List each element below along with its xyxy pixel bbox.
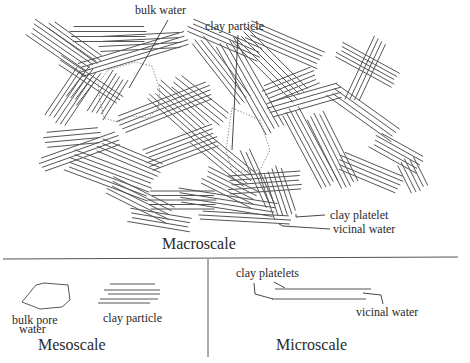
macroscale-title: Macroscale [162,235,236,252]
clay-platelet [132,218,188,227]
clay-particle-label: clay particle [205,19,264,33]
clay-platelet [333,93,393,136]
clay-particle [45,67,95,126]
clay-platelet [341,51,394,80]
clay-platelet [264,67,310,86]
clay-platelet [245,38,317,69]
clay-platelet [81,44,188,76]
clay-platelet [376,135,423,161]
clay-platelet [375,140,420,165]
clay-platelet [34,24,93,65]
clay-platelet [122,94,211,128]
clay-platelet [87,70,113,111]
clay-particle [216,36,284,134]
clay-particle [336,42,400,87]
clay-platelet [149,94,196,136]
clay-platelet [289,109,330,186]
vicinal-water-leader [279,224,330,229]
platelets-leader-1 [274,282,285,288]
clay-particle [172,76,229,126]
clay-platelet [92,73,117,112]
clay-particle [267,83,342,117]
clay-platelet-leader [296,214,325,217]
clay-particle [190,128,256,187]
clay-particle-leader [232,35,238,150]
clay-platelet [102,38,178,42]
bulk-pore-water-shape [22,283,70,309]
clay-platelet [100,33,179,37]
clay-platelet [326,95,391,142]
clay-platelet [249,149,274,203]
clay-multiscale-diagram: bulk water clay particle clay platelet v… [0,0,470,363]
meso-clay-particle [98,284,160,303]
clay-platelets-label: clay platelets [236,266,299,280]
bulk-pore-label-line2: water [19,322,46,336]
clay-platelet [47,28,97,64]
clay-particle [369,133,424,173]
clay-platelet [342,42,399,73]
clay-particle [398,157,428,194]
clay-platelet [273,97,342,117]
clay-platelet [47,128,98,133]
clay-platelet [43,132,100,137]
clay-platelet [270,92,341,112]
microscale-title: Microscale [276,336,347,353]
clay-platelet [374,145,417,169]
clay-platelet [199,133,252,176]
clay-particle [26,19,97,76]
mesoscale-title: Mesoscale [38,336,106,353]
clay-platelet-label: clay platelet [330,208,389,222]
clay-platelet [69,162,149,192]
meso-clay-particle-label: clay particle [103,311,162,325]
horizontal-separator [3,257,458,259]
clay-platelet [33,29,90,68]
clay-platelet [320,114,354,182]
clay-platelet [126,99,212,133]
clay-platelet [116,85,210,121]
platelets-leader-2 [254,283,273,299]
clay-platelet [339,169,395,193]
clay-platelet [97,151,158,177]
clay-platelet [342,47,397,77]
clay-platelet [270,83,338,102]
clay-platelet [64,170,148,201]
clay-platelet [336,83,400,129]
clay-platelet [339,165,398,190]
clay-particle [307,111,358,189]
bulk-water-leader [129,20,168,88]
macroscale-clay-particles [26,19,428,232]
vicinal-water-micro-label: vicinal water [356,305,418,319]
clay-platelet [26,35,86,77]
clay-platelet [336,52,394,84]
clay-platelet [307,120,341,189]
clay-platelet [131,213,190,223]
clay-particle [143,124,219,170]
clay-platelet [127,221,190,231]
clay-particle [64,150,154,201]
clay-platelet [69,157,151,188]
clay-particle [87,70,128,120]
bulk-water-label: bulk water [135,3,186,17]
clay-particle [70,27,147,42]
clay-platelet [130,208,191,218]
clay-platelet [336,57,392,88]
vicinal-water-label: vicinal water [333,222,395,236]
clay-platelet [334,88,396,132]
clay-platelet [382,133,424,156]
